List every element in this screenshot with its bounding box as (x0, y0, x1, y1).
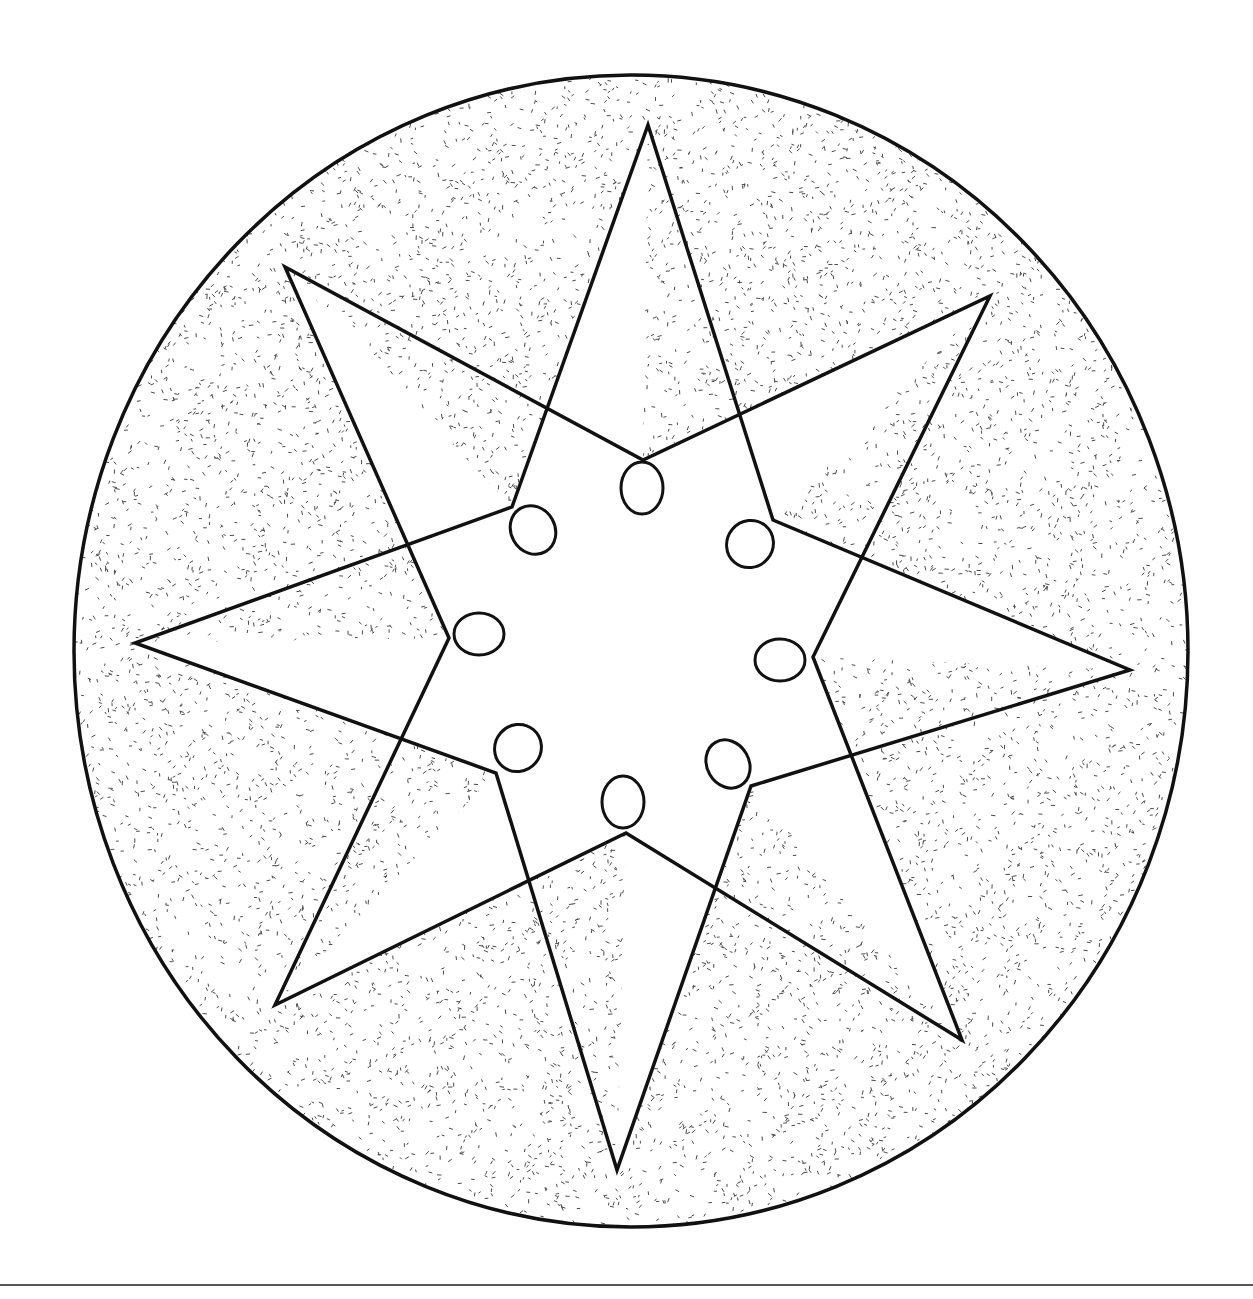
diagram-canvas (0, 0, 1253, 1299)
oval-7 (454, 613, 504, 655)
star-mandala-diagram (0, 0, 1253, 1299)
oval-3 (755, 639, 805, 681)
oval-5 (602, 776, 644, 828)
oval-1 (621, 462, 663, 514)
